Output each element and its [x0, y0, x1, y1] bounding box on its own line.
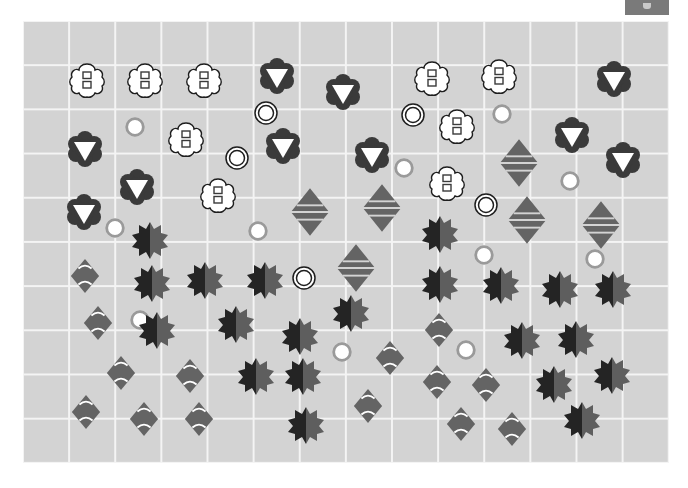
starburst-piece-icon[interactable]	[331, 293, 371, 333]
arc-diamond-piece-icon[interactable]	[105, 354, 137, 392]
triangle-badge-piece-icon[interactable]	[257, 56, 297, 96]
arc-diamond-piece-icon[interactable]	[70, 393, 102, 431]
double-ring-piece-icon[interactable]	[291, 265, 317, 291]
ring-piece-icon[interactable]	[103, 216, 127, 240]
starburst-piece-icon[interactable]	[137, 310, 177, 350]
starburst-piece-icon[interactable]	[420, 264, 460, 304]
ring-piece-icon[interactable]	[558, 169, 582, 193]
starburst-piece-icon[interactable]	[420, 214, 460, 254]
arc-diamond-piece-icon[interactable]	[174, 357, 206, 395]
starburst-piece-icon[interactable]	[185, 260, 225, 300]
starburst-piece-icon[interactable]	[556, 319, 596, 359]
starburst-piece-icon[interactable]	[540, 269, 580, 309]
ring-piece-icon[interactable]	[392, 156, 416, 180]
starburst-piece-icon[interactable]	[130, 220, 170, 260]
arc-diamond-piece-icon[interactable]	[470, 366, 502, 404]
starburst-piece-icon[interactable]	[236, 356, 276, 396]
ring-piece-icon[interactable]	[583, 247, 607, 271]
flower-piece-icon[interactable]	[67, 60, 107, 100]
flower-piece-icon[interactable]	[125, 60, 165, 100]
arc-diamond-piece-icon[interactable]	[445, 405, 477, 443]
flower-piece-icon[interactable]	[166, 119, 206, 159]
flower-piece-icon[interactable]	[437, 106, 477, 146]
triangle-badge-piece-icon[interactable]	[64, 192, 104, 232]
starburst-piece-icon[interactable]	[534, 364, 574, 404]
ring-piece-icon[interactable]	[246, 219, 270, 243]
ring-piece-icon[interactable]	[123, 115, 147, 139]
flower-piece-icon[interactable]	[412, 58, 452, 98]
starburst-piece-icon[interactable]	[132, 263, 172, 303]
triangle-badge-piece-icon[interactable]	[263, 126, 303, 166]
starburst-piece-icon[interactable]	[593, 269, 633, 309]
double-ring-piece-icon[interactable]	[253, 100, 279, 126]
triangle-badge-piece-icon[interactable]	[117, 167, 157, 207]
arc-diamond-piece-icon[interactable]	[352, 387, 384, 425]
striped-diamond-piece-icon[interactable]	[361, 183, 403, 233]
flower-piece-icon[interactable]	[427, 163, 467, 203]
arc-diamond-piece-icon[interactable]	[82, 304, 114, 342]
arc-diamond-piece-icon[interactable]	[128, 400, 160, 438]
arc-diamond-piece-icon[interactable]	[183, 400, 215, 438]
arc-diamond-piece-icon[interactable]	[421, 363, 453, 401]
menu-icon	[643, 3, 651, 9]
triangle-badge-piece-icon[interactable]	[323, 72, 363, 112]
corner-menu-button[interactable]	[625, 0, 669, 15]
striped-diamond-piece-icon[interactable]	[289, 187, 331, 237]
starburst-piece-icon[interactable]	[592, 355, 632, 395]
ring-piece-icon[interactable]	[454, 338, 478, 362]
arc-diamond-piece-icon[interactable]	[374, 339, 406, 377]
flower-piece-icon[interactable]	[479, 56, 519, 96]
arc-diamond-piece-icon[interactable]	[423, 311, 455, 349]
starburst-piece-icon[interactable]	[283, 356, 323, 396]
starburst-piece-icon[interactable]	[216, 304, 256, 344]
ring-piece-icon[interactable]	[330, 340, 354, 364]
triangle-badge-piece-icon[interactable]	[552, 115, 592, 155]
starburst-piece-icon[interactable]	[502, 320, 542, 360]
double-ring-piece-icon[interactable]	[400, 102, 426, 128]
ring-piece-icon[interactable]	[472, 243, 496, 267]
starburst-piece-icon[interactable]	[562, 400, 602, 440]
striped-diamond-piece-icon[interactable]	[498, 138, 540, 188]
striped-diamond-piece-icon[interactable]	[580, 200, 622, 250]
starburst-piece-icon[interactable]	[245, 260, 285, 300]
double-ring-piece-icon[interactable]	[473, 192, 499, 218]
striped-diamond-piece-icon[interactable]	[335, 243, 377, 293]
starburst-piece-icon[interactable]	[286, 405, 326, 445]
starburst-piece-icon[interactable]	[481, 265, 521, 305]
flower-piece-icon[interactable]	[198, 175, 238, 215]
triangle-badge-piece-icon[interactable]	[594, 59, 634, 99]
striped-diamond-piece-icon[interactable]	[506, 195, 548, 245]
arc-diamond-piece-icon[interactable]	[496, 410, 528, 448]
triangle-badge-piece-icon[interactable]	[603, 140, 643, 180]
triangle-badge-piece-icon[interactable]	[65, 129, 105, 169]
double-ring-piece-icon[interactable]	[224, 145, 250, 171]
triangle-badge-piece-icon[interactable]	[352, 135, 392, 175]
flower-piece-icon[interactable]	[184, 60, 224, 100]
arc-diamond-piece-icon[interactable]	[69, 257, 101, 295]
ring-piece-icon[interactable]	[490, 102, 514, 126]
starburst-piece-icon[interactable]	[280, 316, 320, 356]
